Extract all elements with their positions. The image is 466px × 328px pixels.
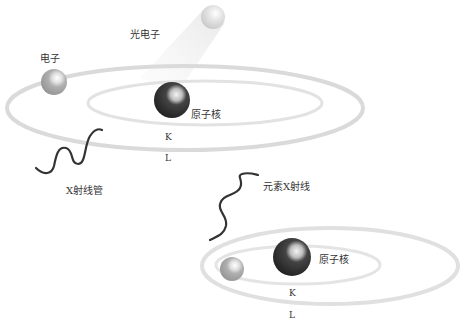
shell-l-label: L xyxy=(165,153,171,163)
photoelectron-icon xyxy=(201,5,225,29)
nucleus-label: 原子核 xyxy=(191,106,221,121)
diagram-canvas: 电子 光电子 原子核 K L X射线管 元素X射线 原子核 K L xyxy=(0,0,466,328)
nucleus-label: 原子核 xyxy=(319,251,349,266)
top-atom xyxy=(7,5,363,173)
nucleus-icon xyxy=(154,82,190,118)
xray-tube-label: X射线管 xyxy=(66,182,103,197)
bottom-atom xyxy=(202,173,458,304)
electron-icon xyxy=(220,257,244,281)
photoelectron-label: 光电子 xyxy=(130,26,160,41)
electron-icon xyxy=(41,69,67,95)
shell-l-label: L xyxy=(289,310,295,320)
emitted-xray-wave-icon xyxy=(210,173,258,240)
shell-k-label: K xyxy=(165,132,172,142)
nucleus-icon xyxy=(273,238,311,276)
element-xray-label: 元素X射线 xyxy=(263,178,310,193)
electron-label: 电子 xyxy=(40,50,60,65)
shell-k-label: K xyxy=(289,288,296,298)
